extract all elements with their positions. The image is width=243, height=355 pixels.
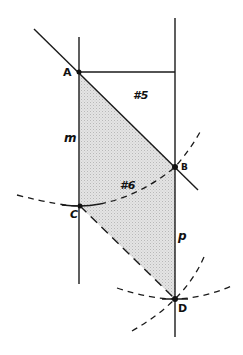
diagram-drawing [0, 0, 243, 355]
label-point-d: D [178, 303, 187, 314]
arc-c-b [17, 195, 80, 206]
label-region-6: #6 [120, 180, 135, 191]
label-line-p: p [178, 230, 187, 242]
label-point-b: B [181, 163, 188, 172]
point-c-marker [78, 204, 83, 209]
label-region-5: #5 [133, 90, 148, 101]
label-point-a: A [63, 67, 72, 78]
label-point-c: C [70, 209, 78, 220]
point-b-marker [172, 164, 178, 170]
label-line-m: m [64, 132, 77, 144]
point-a-marker [77, 70, 82, 75]
geometry-diagram: A B C D m p #5 #6 [0, 0, 243, 355]
